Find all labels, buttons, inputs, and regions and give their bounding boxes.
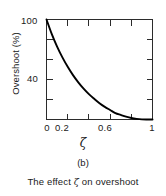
y-axis-ticks-right bbox=[147, 40, 153, 100]
figure-caption: The effect ζ on overshoot bbox=[0, 176, 166, 187]
x-tick-label-0-6: 0.6 bbox=[95, 122, 115, 133]
x-axis-title: ζ bbox=[0, 136, 166, 150]
x-axis-ticks-top bbox=[68, 20, 132, 26]
x-tick-label-0-2: 0.2 bbox=[52, 122, 72, 133]
overshoot-curve bbox=[47, 20, 153, 120]
figure-index-label: (b) bbox=[0, 157, 166, 168]
caption-text-after: on overshoot bbox=[79, 176, 139, 187]
figure-panel: Overshoot (%) 100 40 0 0.2 0.6 1 ζ (b) T… bbox=[0, 0, 166, 196]
axis-frame bbox=[47, 20, 153, 120]
caption-text-before: The effect bbox=[27, 176, 73, 187]
x-tick-label-1: 1 bbox=[142, 122, 162, 133]
y-axis-title: Overshoot (%) bbox=[10, 18, 21, 110]
chart-plot-area: Overshoot (%) 100 40 0 0.2 0.6 1 bbox=[0, 0, 166, 140]
y-tick-label-40: 40 bbox=[27, 73, 38, 84]
y-tick-label-100: 100 bbox=[21, 15, 37, 26]
